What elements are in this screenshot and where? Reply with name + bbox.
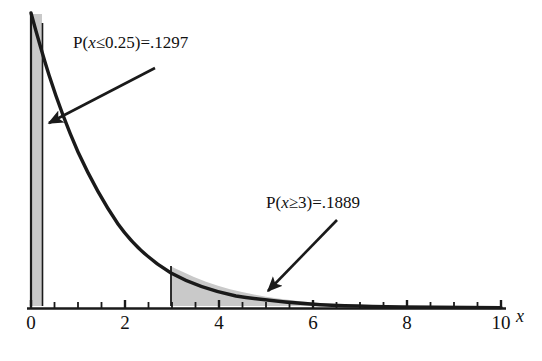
x-tick-label-8: 8 (402, 312, 412, 334)
chart-canvas (0, 0, 542, 361)
annot-right-variable: x (281, 193, 289, 212)
annotation-right-tail-probability: P(x≥3)=.1889 (266, 193, 360, 213)
x-tick-label-0: 0 (26, 312, 36, 334)
x-tick-label-6: 6 (308, 312, 318, 334)
annot-left-variable: x (88, 33, 96, 52)
x-tick-label-4: 4 (214, 312, 224, 334)
shaded-region-left-tail (31, 14, 42, 306)
annot-left-relation: ≤0.25 (96, 33, 135, 52)
right-annotation-arrow (268, 220, 337, 291)
annot-right-prefix: P( (266, 193, 281, 212)
x-tick-label-2: 2 (120, 312, 130, 334)
annot-left-suffix: )=.1297 (135, 33, 189, 52)
shaded-region-right-tail (171, 267, 501, 308)
exponential-distribution-figure: P(x≤0.25)=.1297 P(x≥3)=.1889 0 2 4 6 8 1… (0, 0, 542, 361)
x-axis-label: x (516, 306, 524, 327)
exponential-density-curve (31, 13, 501, 308)
annot-right-relation: ≥3 (289, 193, 307, 212)
x-tick-label-10: 10 (492, 312, 511, 334)
left-annotation-arrow (49, 68, 155, 123)
annot-right-suffix: )=.1889 (307, 193, 361, 212)
annot-left-prefix: P( (73, 33, 88, 52)
annotation-left-tail-probability: P(x≤0.25)=.1297 (73, 33, 188, 53)
